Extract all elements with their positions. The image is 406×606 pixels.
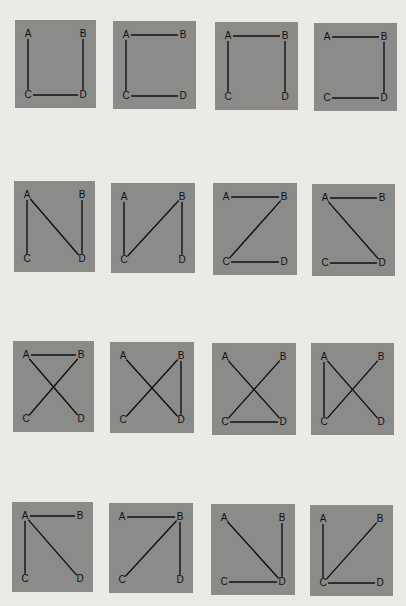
node-label-d: D — [77, 254, 87, 264]
node-label-c: C — [322, 93, 332, 103]
node-label-b: B — [377, 193, 387, 203]
node-label-d: D — [177, 255, 187, 265]
node-label-c: C — [219, 577, 229, 587]
node-label-d: D — [175, 575, 185, 585]
node-label-b: B — [279, 192, 289, 202]
node-label-c: C — [319, 417, 329, 427]
node-label-b: B — [277, 513, 287, 523]
node-label-a: A — [22, 190, 32, 200]
node-label-d: D — [280, 92, 290, 102]
diagram-panel-r3c3: ABCD — [212, 343, 296, 435]
figure-page: ABCDABCDABCDABCDABCDABCDABCDABCDABCDABCD… — [0, 0, 406, 606]
node-label-b: B — [175, 512, 185, 522]
diagram-panel-r2c3: ABCD — [213, 183, 297, 275]
edge-b-c — [327, 523, 377, 579]
node-label-c: C — [20, 574, 30, 584]
node-label-d: D — [78, 90, 88, 100]
diagram-panel-r2c2: ABCD — [111, 183, 195, 273]
node-label-d: D — [176, 415, 186, 425]
node-label-b: B — [278, 352, 288, 362]
node-label-a: A — [322, 32, 332, 42]
edge-b-c — [126, 521, 177, 576]
node-label-b: B — [379, 32, 389, 42]
node-label-d: D — [278, 417, 288, 427]
diagram-panel-r2c1: ABCD — [14, 181, 95, 272]
node-label-c: C — [318, 578, 328, 588]
node-label-a: A — [21, 350, 31, 360]
node-label-c: C — [117, 575, 127, 585]
node-label-a: A — [121, 30, 131, 40]
node-label-a: A — [23, 29, 33, 39]
node-label-a: A — [223, 31, 233, 41]
node-label-d: D — [277, 577, 287, 587]
node-label-b: B — [77, 190, 87, 200]
diagram-panel-r1c3: ABCD — [215, 22, 298, 110]
node-label-a: A — [117, 512, 127, 522]
diagram-panel-r3c1: ABCD — [13, 341, 94, 432]
diagram-panel-r1c2: ABCD — [113, 21, 196, 109]
node-label-c: C — [23, 90, 33, 100]
diagram-panel-r4c2: ABCD — [109, 503, 193, 593]
node-label-b: B — [78, 29, 88, 39]
diagram-panel-r1c1: ABCD — [15, 20, 96, 108]
edge-a-d — [228, 522, 279, 578]
node-label-c: C — [223, 92, 233, 102]
diagram-panel-r3c2: ABCD — [110, 342, 194, 433]
node-label-c: C — [118, 415, 128, 425]
node-label-a: A — [319, 352, 329, 362]
node-label-c: C — [121, 91, 131, 101]
node-label-a: A — [318, 514, 328, 524]
node-label-d: D — [375, 578, 385, 588]
node-label-a: A — [219, 513, 229, 523]
node-label-b: B — [75, 511, 85, 521]
diagram-panel-r4c3: ABCD — [211, 504, 295, 595]
node-label-c: C — [221, 257, 231, 267]
diagram-panel-r3c4: ABCD — [311, 343, 394, 435]
edge-b-c — [128, 201, 179, 256]
node-label-d: D — [178, 91, 188, 101]
node-label-d: D — [76, 414, 86, 424]
node-label-a: A — [119, 192, 129, 202]
node-label-d: D — [279, 257, 289, 267]
node-label-d: D — [377, 258, 387, 268]
node-label-a: A — [221, 192, 231, 202]
diagram-panel-r1c4: ABCD — [314, 23, 397, 111]
node-label-b: B — [76, 350, 86, 360]
node-label-b: B — [375, 514, 385, 524]
node-label-c: C — [220, 417, 230, 427]
node-label-c: C — [320, 258, 330, 268]
node-label-a: A — [220, 352, 230, 362]
node-label-c: C — [21, 414, 31, 424]
edge-a-d — [31, 199, 79, 255]
diagram-panel-r2c4: ABCD — [312, 184, 395, 276]
diagram-panel-r4c4: ABCD — [310, 505, 393, 596]
node-label-d: D — [75, 574, 85, 584]
node-label-d: D — [379, 93, 389, 103]
edge-b-c — [230, 201, 281, 258]
diagram-panel-r4c1: ABCD — [12, 502, 93, 592]
node-label-c: C — [22, 254, 32, 264]
node-label-b: B — [176, 351, 186, 361]
node-label-b: B — [280, 31, 290, 41]
node-label-b: B — [178, 30, 188, 40]
node-label-a: A — [20, 511, 30, 521]
edge-a-d — [329, 202, 379, 259]
node-label-b: B — [376, 352, 386, 362]
node-label-b: B — [177, 192, 187, 202]
node-label-a: A — [320, 193, 330, 203]
node-label-d: D — [376, 417, 386, 427]
node-label-c: C — [119, 255, 129, 265]
node-label-a: A — [118, 351, 128, 361]
edge-a-d — [29, 520, 77, 575]
